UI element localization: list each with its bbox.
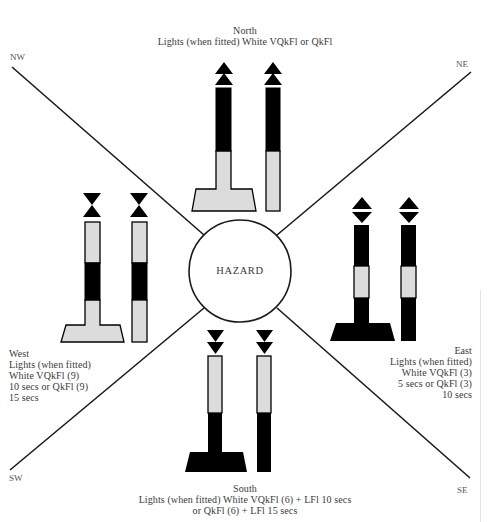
east-lights-4: 10 secs	[370, 389, 472, 400]
west-pillar-topmark-cone-up-icon	[130, 205, 148, 217]
south-spar-buoy	[185, 330, 247, 472]
west-lights-4: 15 secs	[9, 392, 91, 403]
page-edge-line	[480, 290, 481, 522]
corner-label-sw: SW	[9, 473, 23, 484]
north-title: North	[100, 25, 390, 36]
east-pillar-topmark-cone-up-icon	[399, 197, 419, 209]
north-pillar-buoy	[264, 62, 282, 211]
north-topmark-cone-lower-icon	[215, 73, 233, 85]
east-title: East	[370, 345, 472, 356]
west-lights-3: 10 secs or QkFl (9)	[9, 381, 91, 392]
north-lights: Lights (when fitted) White VQkFl or QkFl	[100, 36, 390, 47]
south-caption: South Lights (when fitted) White VQkFl (…	[100, 483, 390, 516]
west-topmark-cone-up-icon	[83, 205, 101, 217]
south-lights-2: or QkFl (6) + LFl 15 secs	[100, 505, 390, 516]
south-pillar-topmark-cone-upper-icon	[256, 330, 273, 342]
west-pillar-topmark-cone-down-icon	[130, 193, 148, 205]
line-nw	[12, 67, 204, 235]
south-pillar-topmark-cone-lower-icon	[256, 342, 273, 354]
south-topmark-cone-upper-icon	[207, 330, 224, 342]
corner-label-se: SE	[457, 485, 468, 496]
west-title: West	[9, 348, 91, 359]
north-spar-buoy	[192, 62, 256, 211]
east-lights-2: White VQkFl (3)	[370, 367, 472, 378]
corner-label-ne: NE	[456, 59, 468, 70]
east-topmark-cone-down-icon	[352, 212, 372, 223]
west-lights-1: Lights (when fitted)	[9, 359, 91, 370]
south-title: South	[100, 483, 390, 494]
east-lights-1: Lights (when fitted)	[370, 356, 472, 367]
north-caption: North Lights (when fitted) White VQkFl o…	[100, 25, 390, 47]
south-lights-1: Lights (when fitted) White VQkFl (6) + L…	[100, 494, 390, 505]
east-spar-buoy	[330, 197, 395, 341]
east-topmark-cone-up-icon	[352, 197, 372, 209]
east-caption: East Lights (when fitted) White VQkFl (3…	[370, 345, 472, 400]
south-pillar-buoy	[256, 330, 273, 472]
north-topmark-cone-upper-icon	[215, 62, 233, 74]
east-lights-3: 5 secs or QkFl (3)	[370, 378, 472, 389]
east-pillar-topmark-cone-down-icon	[399, 212, 419, 223]
west-topmark-cone-down-icon	[83, 193, 101, 205]
west-caption: West Lights (when fitted) White VQkFl (9…	[9, 348, 91, 403]
north-pillar-topmark-cone-upper-icon	[264, 62, 282, 74]
hazard-label: HAZARD	[200, 265, 280, 276]
west-spar-buoy	[61, 193, 124, 342]
line-ne	[277, 72, 471, 235]
cardinal-marks-diagram	[0, 0, 487, 522]
corner-label-nw: NW	[10, 52, 25, 63]
west-pillar-buoy	[130, 193, 148, 342]
south-topmark-cone-lower-icon	[207, 342, 224, 354]
east-pillar-buoy	[399, 197, 419, 341]
north-pillar-topmark-cone-lower-icon	[264, 73, 282, 85]
west-lights-2: White VQkFl (9)	[9, 370, 91, 381]
